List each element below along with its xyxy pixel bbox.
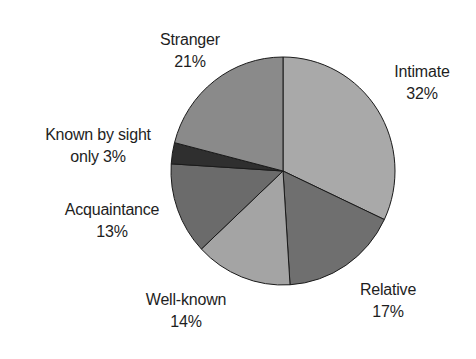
label-known-by-sight-value: only 3% [28,146,168,168]
label-known-by-sight: Known by sight only 3% [28,124,168,168]
label-intimate-value: 32% [382,83,462,105]
pie-slices [171,57,395,285]
label-known-by-sight-name: Known by sight [28,124,168,146]
label-acquaintance-name: Acquaintance [47,199,177,221]
label-stranger-value: 21% [140,51,240,73]
label-acquaintance: Acquaintance 13% [47,199,177,243]
label-acquaintance-value: 13% [47,221,177,243]
label-intimate-name: Intimate [382,61,462,83]
label-stranger-name: Stranger [140,29,240,51]
label-well-known-value: 14% [131,311,241,333]
label-intimate: Intimate 32% [382,61,462,105]
label-stranger: Stranger 21% [140,29,240,73]
label-well-known-name: Well-known [131,289,241,311]
label-relative: Relative 17% [348,279,428,323]
label-relative-name: Relative [348,279,428,301]
label-well-known: Well-known 14% [131,289,241,333]
label-relative-value: 17% [348,301,428,323]
